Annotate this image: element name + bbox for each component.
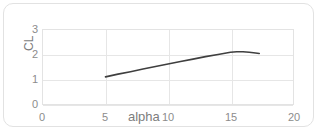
series-line-cl <box>106 52 260 77</box>
x-axis-title: alpha <box>128 110 160 124</box>
x-tick-label: 5 <box>90 112 120 123</box>
chart-frame: 3 2 1 0 CL 0 5 10 15 20 alpha <box>3 3 314 127</box>
x-tick-label: 15 <box>216 112 246 123</box>
y-axis-title: CL <box>23 36 35 51</box>
y-tick-label: 0 <box>16 99 38 110</box>
series-plot <box>43 30 293 104</box>
y-tick-label: 3 <box>16 24 38 35</box>
gridline-horizontal <box>43 105 293 106</box>
plot-area <box>42 29 294 105</box>
x-tick-label: 0 <box>27 112 57 123</box>
x-axis-tick-labels: 0 5 10 15 20 <box>42 112 294 126</box>
x-tick-label: 20 <box>279 112 309 123</box>
y-tick-label: 1 <box>16 74 38 85</box>
